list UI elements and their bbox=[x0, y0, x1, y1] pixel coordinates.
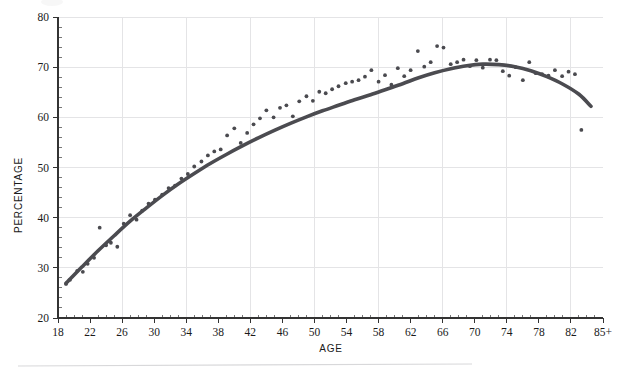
x-tick-label: 26 bbox=[116, 326, 128, 338]
data-point bbox=[409, 68, 413, 72]
y-tick-label: 70 bbox=[38, 61, 50, 73]
x-tick-label: 58 bbox=[373, 326, 385, 338]
x-tick-label: 38 bbox=[213, 326, 225, 338]
data-point bbox=[297, 99, 301, 103]
data-point bbox=[573, 72, 577, 76]
data-point bbox=[219, 148, 223, 152]
data-point bbox=[225, 133, 229, 137]
data-point bbox=[449, 62, 453, 66]
data-point bbox=[416, 49, 420, 53]
data-point bbox=[305, 94, 309, 98]
chart-figure: 20304050607080 1822263034384246505458626… bbox=[0, 0, 625, 371]
data-point bbox=[212, 150, 216, 154]
data-point bbox=[377, 80, 381, 84]
data-point bbox=[272, 115, 276, 119]
data-point bbox=[278, 106, 282, 110]
data-point bbox=[245, 131, 249, 135]
data-point bbox=[192, 165, 196, 169]
y-tick-label: 30 bbox=[38, 262, 50, 274]
x-tick-label: 70 bbox=[469, 326, 481, 338]
x-tick-label: 74 bbox=[501, 326, 513, 338]
data-point bbox=[383, 73, 387, 77]
y-tick-label: 20 bbox=[38, 312, 50, 324]
data-point bbox=[311, 99, 315, 103]
data-point bbox=[369, 68, 373, 72]
data-point bbox=[507, 74, 511, 78]
data-point bbox=[344, 81, 348, 85]
y-tick-label: 60 bbox=[38, 111, 50, 123]
percentage-by-age-scatter-chart: 20304050607080 1822263034384246505458626… bbox=[0, 0, 625, 371]
data-point bbox=[115, 245, 119, 249]
data-point bbox=[553, 68, 557, 72]
data-point bbox=[579, 128, 583, 132]
x-tick-label: 30 bbox=[148, 326, 160, 338]
data-point bbox=[422, 65, 426, 69]
data-point bbox=[521, 78, 525, 82]
x-tick-label: 50 bbox=[309, 326, 321, 338]
data-point bbox=[488, 58, 492, 62]
x-tick-label: 82 bbox=[565, 326, 577, 338]
data-point bbox=[317, 90, 321, 94]
x-tick-label: 46 bbox=[277, 326, 289, 338]
data-point bbox=[501, 69, 505, 73]
y-axis-title: PERCENTAGE bbox=[13, 157, 24, 233]
x-tick-label: 78 bbox=[533, 326, 545, 338]
data-point bbox=[285, 103, 289, 107]
data-point bbox=[474, 58, 478, 62]
data-point bbox=[337, 84, 341, 88]
data-point bbox=[495, 58, 499, 62]
x-tick-label: 34 bbox=[180, 326, 192, 338]
data-point bbox=[429, 60, 433, 64]
data-point bbox=[442, 46, 446, 50]
x-tick-label: 85+ bbox=[594, 326, 612, 338]
data-point bbox=[258, 116, 262, 120]
data-point bbox=[232, 126, 236, 130]
y-tick-label: 40 bbox=[38, 212, 50, 224]
data-point bbox=[128, 213, 132, 217]
data-point bbox=[200, 160, 204, 164]
x-axis-title: AGE bbox=[319, 343, 343, 354]
data-point bbox=[324, 91, 328, 95]
y-tick-label: 50 bbox=[38, 162, 50, 174]
x-tick-label: 18 bbox=[52, 326, 64, 338]
data-point bbox=[363, 75, 367, 79]
y-tick-label: 80 bbox=[38, 11, 50, 23]
data-point bbox=[357, 78, 361, 82]
data-point bbox=[396, 66, 400, 70]
data-point bbox=[291, 114, 295, 118]
data-point bbox=[567, 70, 571, 74]
data-point bbox=[527, 60, 531, 64]
data-point bbox=[206, 154, 210, 158]
data-point bbox=[252, 122, 256, 126]
data-point bbox=[481, 66, 485, 70]
data-point bbox=[402, 74, 406, 78]
data-point bbox=[330, 87, 334, 91]
data-point bbox=[81, 270, 85, 274]
data-point bbox=[98, 226, 102, 230]
data-point bbox=[264, 108, 268, 112]
x-tick-label: 62 bbox=[405, 326, 417, 338]
data-point bbox=[350, 80, 354, 84]
x-tick-label: 54 bbox=[341, 326, 353, 338]
x-tick-label: 66 bbox=[437, 326, 449, 338]
x-tick-label: 22 bbox=[84, 326, 96, 338]
data-point bbox=[455, 60, 459, 64]
x-tick-label: 42 bbox=[245, 326, 257, 338]
data-point bbox=[560, 74, 564, 78]
data-point bbox=[462, 58, 466, 62]
data-point bbox=[435, 44, 439, 48]
